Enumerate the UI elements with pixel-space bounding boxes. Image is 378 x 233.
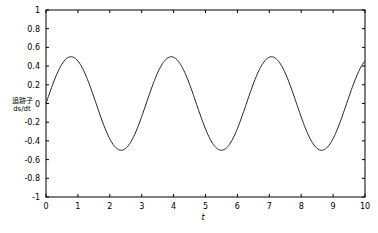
y-tick-label: 0.6 <box>27 43 40 52</box>
x-tick-label: 4 <box>171 202 176 211</box>
x-axis-label: t <box>201 213 205 222</box>
y-tick-label: 1 <box>35 6 40 15</box>
y-tick-label: -0.6 <box>24 156 40 165</box>
y-axis-label-sub: ds/dt <box>13 105 31 113</box>
y-tick-label: 0 <box>35 100 40 109</box>
y-tick-label: -1 <box>32 193 40 202</box>
plot-frame <box>46 10 365 197</box>
y-tick-label: 0.2 <box>27 81 40 90</box>
x-tick-label: 0 <box>43 202 48 211</box>
x-tick-label: 5 <box>203 202 208 211</box>
x-tick-label: 2 <box>107 202 112 211</box>
x-tick-label: 7 <box>267 202 272 211</box>
line-chart: 10.80.60.40.20-0.2-0.4-0.6-0.8-1 0123456… <box>0 0 378 233</box>
x-tick-label: 6 <box>235 202 240 211</box>
y-axis-ticks: 10.80.60.40.20-0.2-0.4-0.6-0.8-1 <box>24 6 365 202</box>
y-tick-label: -0.8 <box>24 174 40 183</box>
y-tick-label: -0.4 <box>24 137 40 146</box>
x-tick-label: 3 <box>139 202 144 211</box>
data-line <box>46 57 365 151</box>
y-axis-label: 追跡子 <box>12 96 33 105</box>
y-tick-label: -0.2 <box>24 118 40 127</box>
y-tick-label: 0.8 <box>27 25 40 34</box>
y-tick-label: 0.4 <box>27 62 40 71</box>
x-tick-label: 1 <box>75 202 80 211</box>
plot-border <box>46 10 365 197</box>
x-tick-label: 8 <box>299 202 304 211</box>
x-axis-ticks: 012345678910 <box>43 10 370 211</box>
x-tick-label: 10 <box>360 202 370 211</box>
x-tick-label: 9 <box>331 202 336 211</box>
